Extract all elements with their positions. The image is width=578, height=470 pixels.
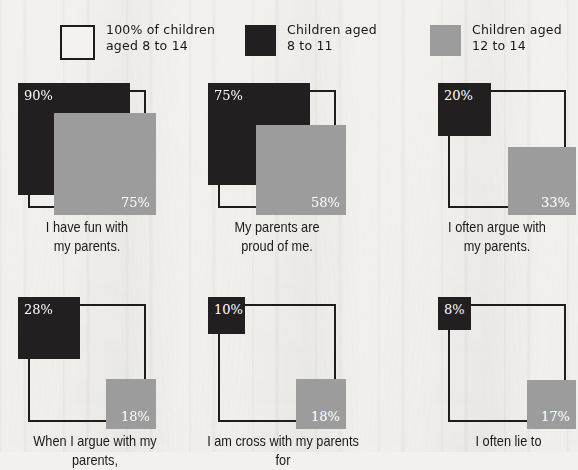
dark-square-8-11: 28%	[18, 297, 80, 359]
chart-cross-with-parents: 10% 18% I am cross with my parents for	[218, 304, 336, 422]
gray-square-12-14: 58%	[256, 125, 346, 215]
chart-caption: I have fun with my parents.	[9, 218, 166, 256]
dark-square-8-11: 20%	[438, 83, 491, 136]
dark-square-value: 90%	[24, 89, 53, 102]
chart-when-i-argue: 28% 18% When I argue with my parents,	[28, 304, 146, 422]
plot-area: 90% 75%	[28, 90, 146, 208]
gray-square-value: 58%	[311, 196, 340, 209]
dark-square-value: 75%	[214, 89, 243, 102]
dark-square-value: 10%	[214, 303, 243, 316]
gray-square-12-14: 17%	[527, 380, 576, 429]
gray-square-12-14: 18%	[106, 379, 156, 429]
plot-area: 75% 58%	[218, 90, 336, 208]
gray-square-value: 17%	[541, 410, 570, 423]
plot-area: 20% 33%	[448, 90, 566, 208]
chart-caption: My parents are proud of me.	[199, 218, 356, 256]
gray-square-12-14: 33%	[508, 147, 576, 215]
chart-caption: I often lie to	[436, 432, 578, 451]
plot-area: 8% 17%	[448, 304, 566, 422]
gray-square-12-14: 18%	[296, 379, 346, 429]
dark-square-8-11: 10%	[208, 297, 245, 334]
chart-often-argue: 20% 33% I often argue with my parents.	[448, 90, 566, 208]
dark-square-value: 20%	[444, 89, 473, 102]
chart-caption: I am cross with my parents for	[199, 432, 366, 470]
chart-often-lie: 8% 17% I often lie to	[448, 304, 566, 422]
plot-area: 10% 18%	[218, 304, 336, 422]
chart-caption: I often argue with my parents.	[419, 218, 576, 256]
dark-square-8-11: 8%	[438, 297, 471, 330]
plot-area: 28% 18%	[28, 304, 146, 422]
gray-square-value: 18%	[121, 410, 150, 423]
gray-square-12-14: 75%	[54, 113, 156, 215]
gray-square-value: 33%	[541, 196, 570, 209]
gray-square-value: 75%	[121, 196, 150, 209]
chart-caption: When I argue with my parents,	[11, 432, 178, 470]
chart-parents-proud: 75% 58% My parents are proud of me.	[218, 90, 336, 208]
gray-square-value: 18%	[311, 410, 340, 423]
chart-fun-with-parents: 90% 75% I have fun with my parents.	[28, 90, 146, 208]
dark-square-value: 28%	[24, 303, 53, 316]
dark-square-value: 8%	[444, 303, 465, 316]
